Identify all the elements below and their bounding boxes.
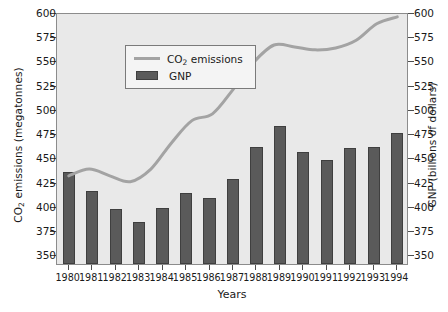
- x-tick-label-1994: 1994: [379, 272, 413, 283]
- bar-1989: [274, 126, 286, 264]
- y-tick-label-right-600: 600: [414, 8, 448, 18]
- y-tick-label-right-425: 425: [414, 178, 448, 188]
- y-tick-label-left-600: 600: [16, 8, 56, 18]
- bar-1986: [203, 198, 215, 264]
- plot-area: CO2 emissions GNP: [56, 13, 408, 265]
- bar-1985: [180, 193, 192, 264]
- x-tick-mark-1990: [302, 265, 303, 270]
- y-tick-label-left-550: 550: [16, 56, 56, 66]
- y-tick-label-left-475: 475: [16, 129, 56, 139]
- y-tick-label-right-575: 575: [414, 32, 448, 42]
- y-tick-label-right-550: 550: [414, 56, 448, 66]
- y-tick-label-left-400: 400: [16, 202, 56, 212]
- y-tick-label-right-450: 450: [414, 153, 448, 163]
- y-tick-label-right-475: 475: [414, 129, 448, 139]
- y-tick-label-left-375: 375: [16, 226, 56, 236]
- x-tick-mark-1986: [209, 265, 210, 270]
- bar-1982: [110, 209, 122, 264]
- x-tick-mark-1983: [138, 265, 139, 270]
- y-tick-label-left-500: 500: [16, 105, 56, 115]
- x-tick-mark-1982: [115, 265, 116, 270]
- y-tick-label-right-525: 525: [414, 81, 448, 91]
- legend-item-co2: CO2 emissions: [134, 51, 243, 66]
- bar-1983: [133, 222, 145, 264]
- legend-item-gnp: GNP: [134, 68, 243, 83]
- co2-gnp-chart: CO2 emissions (megatonnes) GNP (billions…: [0, 0, 448, 312]
- y-tick-label-left-525: 525: [16, 81, 56, 91]
- x-tick-mark-1987: [232, 265, 233, 270]
- bar-1984: [156, 208, 168, 264]
- bar-1994: [391, 133, 403, 264]
- y-tick-label-left-575: 575: [16, 32, 56, 42]
- bar-1988: [250, 147, 262, 264]
- x-tick-mark-1984: [162, 265, 163, 270]
- line-swatch-icon: [134, 57, 160, 60]
- y-tick-label-left-350: 350: [16, 250, 56, 260]
- legend-label-co2: CO2 emissions: [167, 53, 243, 65]
- legend-label-co2-suffix: emissions: [187, 53, 242, 65]
- bar-1980: [63, 172, 75, 264]
- x-tick-mark-1989: [279, 265, 280, 270]
- bar-1990: [297, 152, 309, 264]
- x-tick-mark-1994: [396, 265, 397, 270]
- x-axis-title: Years: [56, 288, 408, 301]
- legend-label-gnp: GNP: [169, 70, 191, 82]
- x-tick-mark-1992: [349, 265, 350, 270]
- y-tick-label-right-350: 350: [414, 250, 448, 260]
- bar-1993: [368, 147, 380, 264]
- legend: CO2 emissions GNP: [125, 45, 256, 89]
- bar-1981: [86, 191, 98, 264]
- bar-1987: [227, 179, 239, 264]
- legend-label-co2-subscript: 2: [183, 58, 188, 67]
- x-tick-mark-1991: [326, 265, 327, 270]
- x-tick-mark-1985: [185, 265, 186, 270]
- y-tick-label-left-450: 450: [16, 153, 56, 163]
- x-tick-mark-1988: [255, 265, 256, 270]
- x-tick-mark-1981: [91, 265, 92, 270]
- bar-1992: [344, 148, 356, 264]
- legend-label-co2-prefix: CO: [167, 53, 183, 65]
- y-tick-label-right-375: 375: [414, 226, 448, 236]
- y-tick-label-right-400: 400: [414, 202, 448, 212]
- x-tick-mark-1980: [68, 265, 69, 270]
- y-tick-label-right-500: 500: [414, 105, 448, 115]
- bar-1991: [321, 160, 333, 264]
- y-tick-label-left-425: 425: [16, 178, 56, 188]
- x-tick-mark-1993: [373, 265, 374, 270]
- bar-swatch-icon: [136, 71, 158, 80]
